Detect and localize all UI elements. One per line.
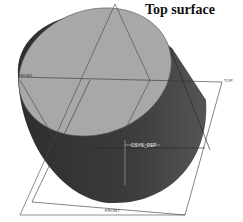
csys-label[interactable]: CSYS_DEF	[131, 143, 156, 148]
datum-label-front-bottom[interactable]: FRONT	[105, 208, 120, 213]
cylinder-model	[0, 0, 243, 222]
datum-label-front[interactable]: FRONT	[18, 73, 33, 78]
cad-viewport[interactable]: Top surface FRONT TOP FRONT CSYS_DEF	[0, 0, 243, 222]
datum-label-top[interactable]: TOP	[224, 78, 233, 83]
diagram-title: Top surface	[145, 2, 215, 18]
